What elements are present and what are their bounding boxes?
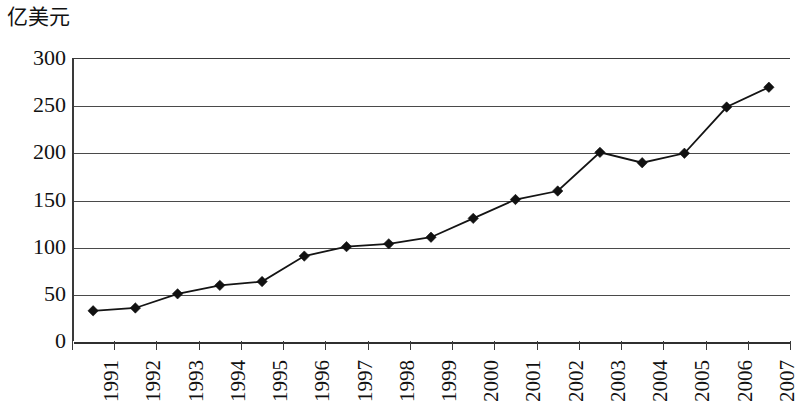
data-point-1999 — [426, 232, 436, 242]
data-series — [0, 0, 800, 404]
data-point-2001 — [510, 194, 520, 204]
data-point-1992 — [130, 303, 140, 313]
line-chart: 亿美元 050100150200250300 19911992199319941… — [0, 0, 800, 404]
data-point-1997 — [341, 241, 351, 251]
data-point-2004 — [637, 158, 647, 168]
data-point-1991 — [88, 306, 98, 316]
data-point-1995 — [257, 276, 267, 286]
data-point-1998 — [384, 239, 394, 249]
data-point-1994 — [215, 280, 225, 290]
series-line — [93, 87, 769, 311]
data-point-1996 — [299, 251, 309, 261]
data-point-1993 — [172, 289, 182, 299]
data-point-2000 — [468, 213, 478, 223]
data-point-2007 — [764, 82, 774, 92]
series-markers — [88, 82, 774, 316]
